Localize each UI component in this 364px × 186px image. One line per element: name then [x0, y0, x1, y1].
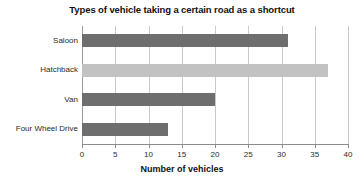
tickmark — [248, 145, 249, 148]
x-tick-label: 25 — [244, 150, 253, 159]
tickmark — [82, 145, 83, 148]
x-tick-label: 0 — [80, 150, 84, 159]
gridline — [348, 26, 349, 144]
tickmark — [282, 145, 283, 148]
x-axis-tickmarks — [82, 145, 348, 149]
bar — [82, 123, 168, 136]
chart-title: Types of vehicle taking a certain road a… — [0, 4, 364, 15]
tickmark — [215, 145, 216, 148]
x-tick-label: 10 — [144, 150, 153, 159]
x-tick-label: 5 — [113, 150, 117, 159]
x-tick-label: 40 — [344, 150, 353, 159]
x-tick-label: 15 — [177, 150, 186, 159]
tickmark — [115, 145, 116, 148]
tickmark — [182, 145, 183, 148]
y-axis-category-labels: SaloonHatchbackVanFour Wheel Drive — [0, 26, 78, 144]
bar — [82, 64, 328, 77]
x-tick-label: 20 — [211, 150, 220, 159]
y-tick-label: Van — [0, 95, 78, 104]
tickmark — [315, 145, 316, 148]
x-axis-tick-labels: 0510152025303540 — [0, 150, 364, 162]
x-tick-label: 30 — [277, 150, 286, 159]
bar — [82, 93, 215, 106]
bar-chart: Types of vehicle taking a certain road a… — [0, 0, 364, 186]
plot-area — [82, 26, 348, 144]
y-tick-label: Hatchback — [0, 65, 78, 74]
x-axis-title: Number of vehicles — [0, 164, 364, 174]
bar-series — [82, 26, 348, 144]
y-tick-label: Four Wheel Drive — [0, 124, 78, 133]
tickmark — [149, 145, 150, 148]
x-tick-label: 35 — [310, 150, 319, 159]
tickmark — [348, 145, 349, 148]
y-tick-label: Saloon — [0, 36, 78, 45]
bar — [82, 34, 288, 47]
